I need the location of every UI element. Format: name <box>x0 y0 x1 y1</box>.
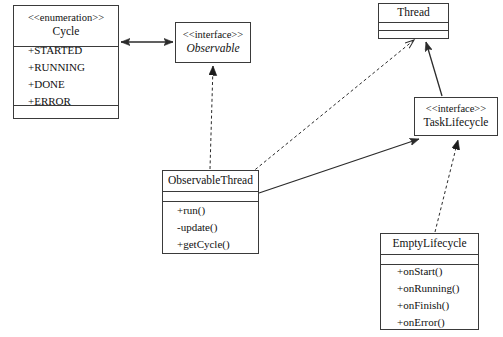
class-header-observable: <<interface>> Observable <box>176 23 250 62</box>
class-name: EmptyLifecycle <box>385 236 474 251</box>
class-stereotype: <<interface>> <box>180 28 246 41</box>
uml-class-thread[interactable]: Thread <box>378 3 449 39</box>
uml-class-diagram: <<enumeration>> Cycle +STARTED +RUNNING … <box>0 0 503 337</box>
class-member: +DONE <box>14 76 118 93</box>
edge-observablethread-observable <box>210 66 213 169</box>
class-members-emptylifecycle: +onStart() +onRunning() +onFinish() +onE… <box>381 265 478 329</box>
class-member: -update() <box>163 219 258 236</box>
class-member: +STARTED <box>14 42 118 59</box>
class-header-tasklifecycle: <<interface>> TaskLifecycle <box>415 98 497 135</box>
uml-class-tasklifecycle[interactable]: <<interface>> TaskLifecycle <box>414 97 498 136</box>
class-empty-compartment <box>14 106 118 118</box>
class-member: +onStart() <box>381 263 478 280</box>
class-empty-compartment <box>163 192 258 202</box>
class-name: Observable <box>180 41 246 56</box>
class-header-observablethread: ObservableThread <box>163 171 258 192</box>
uml-class-observablethread[interactable]: ObservableThread +run() -update() +getCy… <box>162 170 259 254</box>
class-stereotype: <<interface>> <box>419 102 493 115</box>
class-stereotype: <<enumeration>> <box>18 11 114 24</box>
edge-observablethread-thread <box>251 40 414 173</box>
class-header-emptylifecycle: EmptyLifecycle <box>381 234 478 255</box>
edge-emptylifecycle-tasklifecycle <box>435 140 458 232</box>
edge-tasklifecycle-thread <box>426 42 442 96</box>
uml-class-cycle[interactable]: <<enumeration>> Cycle +STARTED +RUNNING … <box>13 5 119 119</box>
uml-class-emptylifecycle[interactable]: EmptyLifecycle +onStart() +onRunning() +… <box>380 233 479 330</box>
class-header-thread: Thread <box>379 4 448 23</box>
class-member: +RUNNING <box>14 59 118 76</box>
class-members-observablethread: +run() -update() +getCycle() <box>163 202 258 253</box>
class-members-cycle: +STARTED +RUNNING +DONE +ERROR <box>14 47 118 106</box>
class-name: Cycle <box>18 24 114 39</box>
class-header-cycle: <<enumeration>> Cycle <box>14 6 118 47</box>
class-name: ObservableThread <box>167 173 254 188</box>
class-name: Thread <box>383 5 444 20</box>
uml-class-observable[interactable]: <<interface>> Observable <box>175 22 251 63</box>
class-member: +getCycle() <box>163 236 258 253</box>
class-member: +onRunning() <box>381 280 478 297</box>
class-member: +onError() <box>381 314 478 331</box>
edge-observablethread-tasklifecycle <box>259 139 419 193</box>
class-empty-compartment <box>379 23 448 31</box>
class-member: +run() <box>163 202 258 219</box>
class-member: +onFinish() <box>381 297 478 314</box>
class-empty-compartment <box>379 31 448 39</box>
class-name: TaskLifecycle <box>419 115 493 130</box>
